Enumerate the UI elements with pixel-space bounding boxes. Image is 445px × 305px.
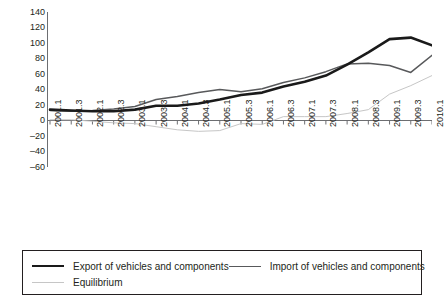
plot-area xyxy=(47,12,432,167)
y-axis-tick-labels: 140120100806040200–20–40–60 xyxy=(0,0,45,200)
y-tick-label: 60 xyxy=(7,70,45,79)
y-tick-label: 120 xyxy=(7,23,45,32)
x-tick-label: 2006.3 xyxy=(287,99,296,127)
legend-label-export: Export of vehicles and components xyxy=(73,261,229,272)
y-tick-label: –40 xyxy=(7,147,45,156)
x-tick-label: 2001.3 xyxy=(75,99,84,127)
x-tick-label: 2006.1 xyxy=(266,99,275,127)
legend-item-export: Export of vehicles and components xyxy=(32,261,229,272)
y-tick-label: –60 xyxy=(7,163,45,172)
y-tick-label: 20 xyxy=(7,101,45,110)
chart-figure: 140120100806040200–20–40–60 2001.12001.3… xyxy=(0,0,445,305)
series-lines xyxy=(47,12,432,167)
x-tick-label: 2005.3 xyxy=(245,99,254,127)
legend-swatch-equilibrium-icon xyxy=(32,282,64,283)
x-tick-label: 2007.1 xyxy=(308,99,317,127)
x-tick-label: 2010.1 xyxy=(436,99,445,127)
x-tick-label: 2005.1 xyxy=(223,99,232,127)
legend-row-1: Export of vehicles and components Import… xyxy=(32,258,412,274)
legend-item-import: Import of vehicles and components xyxy=(229,261,425,272)
x-tick-label: 2009.3 xyxy=(414,99,423,127)
legend-row-2: Equilibrium xyxy=(32,274,412,290)
x-tick-label: 2007.3 xyxy=(329,99,338,127)
y-tick-label: –20 xyxy=(7,132,45,141)
y-tick-label: 100 xyxy=(7,39,45,48)
y-tick-label: 40 xyxy=(7,85,45,94)
x-tick-label: 2004.3 xyxy=(202,99,211,127)
legend-swatch-export-icon xyxy=(32,265,64,267)
x-tick-label: 2003.1 xyxy=(138,99,147,127)
x-tick-label: 2008.1 xyxy=(351,99,360,127)
x-tick-label: 2003.3 xyxy=(160,99,169,127)
x-tick-label: 2008.3 xyxy=(372,99,381,127)
legend-label-equilibrium: Equilibrium xyxy=(73,277,122,288)
x-tick-label: 2004.1 xyxy=(181,99,190,127)
x-tick-label: 2009.1 xyxy=(393,99,402,127)
legend-swatch-import-icon xyxy=(229,266,261,267)
y-tick-label: 80 xyxy=(7,54,45,63)
chart-legend: Export of vehicles and components Import… xyxy=(22,250,422,295)
x-tick-label: 2002.1 xyxy=(96,99,105,127)
y-tick-label: 0 xyxy=(7,116,45,125)
legend-label-import: Import of vehicles and components xyxy=(270,261,425,272)
y-tick-label: 140 xyxy=(7,8,45,17)
legend-item-equilibrium: Equilibrium xyxy=(32,277,282,288)
x-tick-label: 2002.3 xyxy=(117,99,126,127)
x-tick-label: 2001.1 xyxy=(54,99,63,127)
